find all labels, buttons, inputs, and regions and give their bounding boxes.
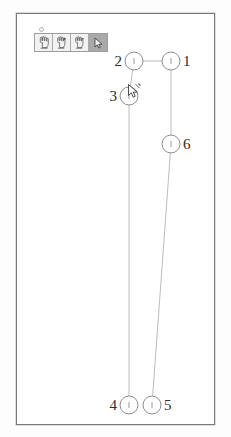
tool-button-hand-pointer[interactable] xyxy=(35,34,53,51)
graph-node-label: 3 xyxy=(110,88,118,104)
tool-button-arrow-cursor[interactable] xyxy=(89,34,107,51)
graph-canvas[interactable]: 123456 xyxy=(16,13,215,425)
hand-remove-icon xyxy=(74,36,85,49)
node-labels-group: 123456 xyxy=(110,53,192,413)
graph-node-label: 5 xyxy=(164,397,172,413)
graph-edge[interactable] xyxy=(153,153,171,396)
graph-drawing-surface[interactable]: 123456 xyxy=(17,14,216,426)
hand-add-icon xyxy=(56,36,67,49)
floating-toolbar[interactable] xyxy=(34,33,108,52)
graph-node-label: 2 xyxy=(115,53,123,69)
graph-node-label: 1 xyxy=(183,53,191,69)
hand-pointer-icon xyxy=(38,36,49,49)
tool-button-hand-remove[interactable] xyxy=(71,34,89,51)
toolbar-drag-handle[interactable] xyxy=(39,27,44,32)
edges-group xyxy=(129,61,171,396)
arrow-cursor-icon xyxy=(93,37,104,49)
graph-node-label: 4 xyxy=(110,397,118,413)
application-window: 123456 xyxy=(0,0,231,437)
graph-node-label: 6 xyxy=(183,136,191,152)
graph-edge[interactable] xyxy=(130,70,132,87)
tool-button-hand-add[interactable] xyxy=(53,34,71,51)
